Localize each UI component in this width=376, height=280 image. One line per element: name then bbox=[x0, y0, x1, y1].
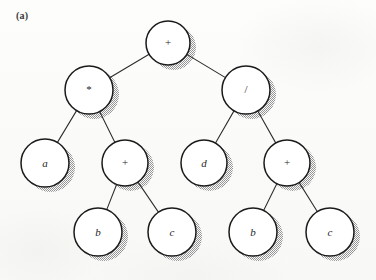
tree-edge bbox=[57, 110, 77, 143]
node-label: a bbox=[42, 157, 48, 169]
node-label: c bbox=[328, 226, 333, 238]
panel-label: (a) bbox=[16, 11, 28, 21]
tree-node-times[interactable]: * bbox=[65, 66, 113, 114]
tree-node-divide[interactable]: / bbox=[222, 66, 270, 114]
tree-edge bbox=[186, 54, 225, 78]
node-label: * bbox=[86, 83, 92, 95]
tree-edge bbox=[107, 184, 117, 210]
expression-tree-figure: +*/a+d+bcbc (a) bbox=[0, 0, 376, 280]
node-label: + bbox=[122, 156, 128, 168]
tree-edge bbox=[215, 110, 234, 143]
tree-node-plus[interactable]: + bbox=[264, 140, 310, 186]
tree-node-c[interactable]: c bbox=[306, 208, 354, 256]
tree-node-plus[interactable]: + bbox=[146, 21, 190, 65]
node-label: d bbox=[201, 157, 207, 169]
tree-node-b[interactable]: b bbox=[229, 208, 277, 256]
tree-edge bbox=[138, 182, 159, 213]
node-label: + bbox=[284, 156, 290, 168]
node-label: + bbox=[165, 36, 171, 48]
node-label: c bbox=[170, 226, 175, 238]
node-label: b bbox=[95, 226, 101, 238]
node-label: b bbox=[250, 226, 256, 238]
tree-node-plus[interactable]: + bbox=[102, 140, 148, 186]
tree-edge bbox=[109, 54, 149, 78]
tree-edge bbox=[299, 182, 318, 212]
tree-edge bbox=[99, 111, 115, 143]
tree-node-d[interactable]: d bbox=[181, 140, 227, 186]
tree-node-b[interactable]: b bbox=[74, 208, 122, 256]
tree-edge bbox=[258, 110, 276, 143]
tree-node-c[interactable]: c bbox=[148, 208, 196, 256]
tree-diagram: +*/a+d+bcbc bbox=[0, 0, 376, 280]
tree-edge bbox=[263, 183, 277, 211]
tree-node-a[interactable]: a bbox=[21, 139, 69, 187]
